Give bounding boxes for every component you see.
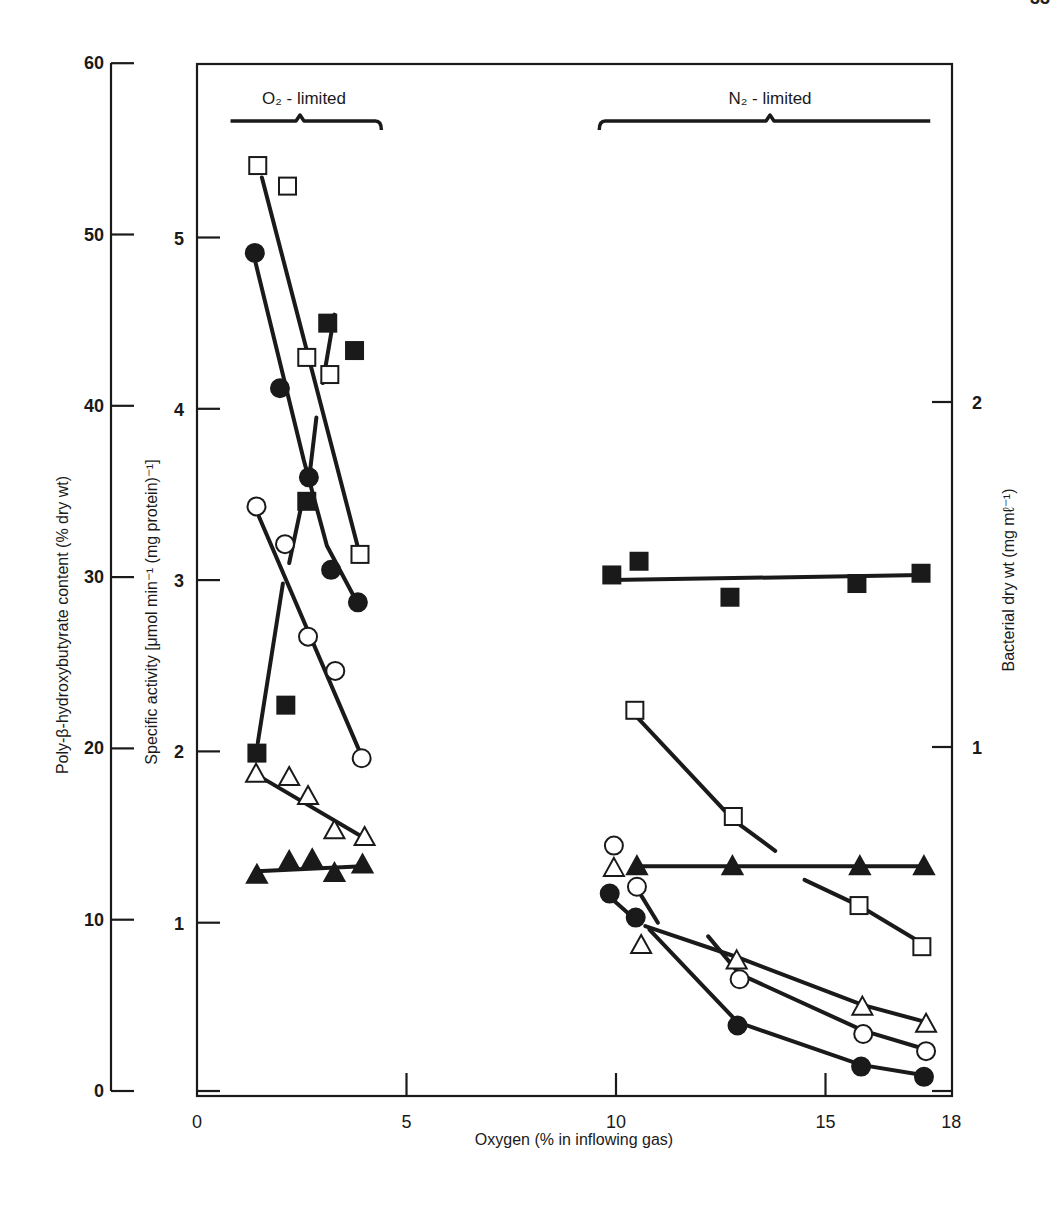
marker-square-filled (848, 575, 865, 592)
marker-triangle-open (298, 786, 318, 804)
fit-line-open-triangle (258, 775, 363, 837)
marker-circle-open (731, 970, 749, 988)
marker-circle-open (353, 749, 371, 767)
marker-circle-filled (271, 379, 289, 397)
y-axis-drywt: 12 (932, 393, 982, 1091)
marker-triangle-open (916, 1014, 936, 1032)
y-right-axis-title: Bacterial dry wt (mg mℓ⁻¹) (1000, 489, 1017, 672)
region-brace (231, 115, 382, 130)
marker-triangle-filled (247, 865, 267, 883)
marker-square-filled (277, 697, 294, 714)
marker-square-open (279, 178, 296, 195)
marker-circle-open (628, 878, 646, 896)
x-axis-title: Oxygen (% in inflowing gas) (475, 1131, 673, 1148)
y-tick-label-activity: 3 (174, 571, 184, 591)
n2-limited-label: N₂ - limited (728, 89, 811, 108)
marker-square-open (851, 897, 868, 914)
y-tick-label-phb: 50 (84, 225, 104, 245)
marker-circle-filled (349, 593, 367, 611)
fit-line-filled-circle (256, 263, 357, 601)
y-tick-label-activity: 1 (174, 914, 184, 934)
fit-line-open-square (637, 717, 775, 851)
y-tick-label-drywt: 1 (972, 738, 982, 758)
x-tick-label: 0 (192, 1112, 202, 1132)
marker-circle-filled (627, 909, 645, 927)
y-inner-axis-title: Specific activity [μmol min⁻¹ (mg protei… (143, 459, 160, 764)
fit-line-filled-square (612, 575, 922, 580)
marker-circle-open (276, 535, 294, 553)
marker-triangle-filled (279, 851, 299, 869)
y-tick-label-activity: 5 (174, 229, 184, 249)
marker-square-filled (298, 493, 315, 510)
marker-square-open (351, 546, 368, 563)
marker-triangle-filled (353, 854, 373, 872)
x-axis: 05101518 (192, 1073, 961, 1132)
fitted-lines (256, 178, 926, 1076)
marker-circle-open (854, 1025, 872, 1043)
marker-square-open (298, 349, 315, 366)
marker-circle-open (917, 1042, 935, 1060)
marker-circle-filled (852, 1058, 870, 1076)
x-tick-label: 10 (606, 1112, 626, 1132)
marker-square-open (725, 808, 742, 825)
y-tick-label-phb: 20 (84, 738, 104, 758)
y-tick-label-activity: 4 (174, 400, 184, 420)
marker-square-open (626, 702, 643, 719)
data-points (246, 157, 936, 1086)
marker-circle-filled (601, 885, 619, 903)
marker-square-filled (631, 553, 648, 570)
marker-square-filled (603, 566, 620, 583)
marker-triangle-open (604, 858, 624, 876)
y-axis-phb: 0102030405060 (84, 53, 134, 1101)
marker-circle-filled (915, 1068, 933, 1086)
y-tick-label-phb: 60 (84, 53, 104, 73)
marker-circle-filled (729, 1016, 747, 1034)
y-outer-axis-title: Poly-β-hydroxybutyrate content (% dry wt… (54, 476, 71, 774)
marker-triangle-filled (302, 849, 322, 867)
marker-square-open (913, 938, 930, 955)
y-tick-label-phb: 0 (94, 1081, 104, 1101)
marker-square-filled (721, 589, 738, 606)
chart: 0102030405060 05101518 12345 12 O₂ - lim… (0, 0, 1062, 1224)
plot-frame (197, 64, 952, 1096)
marker-square-filled (248, 745, 265, 762)
fit-line-filled-square (258, 584, 283, 743)
marker-circle-filled (246, 244, 264, 262)
y-tick-label-phb: 10 (84, 910, 104, 930)
marker-square-filled (346, 342, 363, 359)
marker-square-open (321, 366, 338, 383)
marker-circle-filled (300, 468, 318, 486)
fit-line-filled-circle (650, 930, 925, 1076)
marker-circle-open (605, 837, 623, 855)
marker-circle-open (326, 662, 344, 680)
y-tick-label-phb: 40 (84, 396, 104, 416)
marker-triangle-open (631, 935, 651, 953)
marker-square-filled (913, 565, 930, 582)
x-tick-label: 15 (815, 1112, 835, 1132)
marker-square-open (249, 157, 266, 174)
y-tick-label-drywt: 2 (972, 393, 982, 413)
fit-line-open-triangle (645, 926, 926, 1022)
region-annotations: O₂ - limitedN₂ - limited (231, 89, 931, 130)
marker-circle-open (247, 497, 265, 515)
x-tick-label: 18 (941, 1112, 961, 1132)
y-tick-label-activity: 2 (174, 742, 184, 762)
marker-square-filled (319, 315, 336, 332)
marker-circle-filled (322, 561, 340, 579)
y-tick-label-phb: 30 (84, 567, 104, 587)
marker-circle-open (299, 628, 317, 646)
o2-limited-label: O₂ - limited (262, 89, 346, 108)
x-tick-label: 5 (401, 1112, 411, 1132)
region-brace (599, 115, 930, 130)
marker-triangle-open (279, 767, 299, 785)
marker-triangle-open (246, 764, 266, 782)
